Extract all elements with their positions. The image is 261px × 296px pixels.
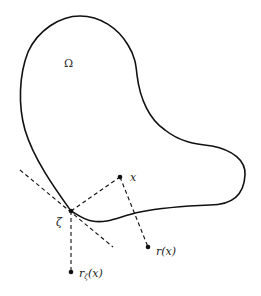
point-zeta [69,209,74,214]
domain-diagram: Ω x ζ r(x) rζ(x) [0,0,261,296]
point-r-x [146,245,151,250]
omega-label: Ω [64,57,73,70]
point-r-zeta-x [69,270,74,275]
zeta-to-x-segment [71,177,120,211]
zeta-label: ζ [56,216,63,229]
point-x [118,175,123,180]
r-zeta-x-label: rζ(x) [79,267,103,281]
domain-boundary [20,16,245,222]
r-x-label: r(x) [156,245,176,258]
tangent-line [20,170,113,247]
x-label: x [130,171,137,184]
r-zeta-arg: (x) [88,267,103,280]
